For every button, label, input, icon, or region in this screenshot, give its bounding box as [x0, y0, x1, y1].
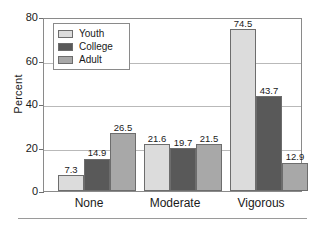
bar-vigorous-college: [256, 96, 282, 191]
legend-item-adult: Adult: [58, 53, 125, 66]
legend-label-adult: Adult: [79, 54, 102, 65]
plot-area: 7.3 14.9 26.5 21.6 19.7 21.5 74.5 43.7 1…: [43, 18, 302, 192]
bar-label-moderate-youth: 21.6: [144, 133, 170, 144]
legend-swatch-youth: [58, 30, 73, 38]
bar-none-adult: [110, 133, 136, 191]
bar-vigorous-adult: [282, 163, 308, 191]
bar-chart-figure: Percent 0 20 40 60 80 7.3 14.9 26.5 21.6…: [0, 0, 325, 229]
bar-vigorous-youth: [230, 29, 256, 191]
y-tick-label-60: 60: [0, 55, 38, 67]
bar-label-none-college: 14.9: [84, 147, 110, 158]
legend-label-youth: Youth: [79, 28, 104, 39]
bar-label-none-youth: 7.3: [58, 164, 84, 175]
bar-label-none-adult: 26.5: [110, 122, 136, 133]
bar-moderate-youth: [144, 144, 170, 191]
x-category-label-none: None: [43, 196, 135, 210]
legend-item-college: College: [58, 40, 125, 53]
bar-label-vigorous-college: 43.7: [256, 85, 282, 96]
legend-label-college: College: [79, 41, 113, 52]
chart-legend: Youth College Adult: [53, 23, 130, 70]
bar-label-moderate-adult: 21.5: [196, 133, 222, 144]
x-category-label-moderate: Moderate: [129, 196, 221, 210]
y-tick-mark-0: [39, 192, 44, 193]
bar-moderate-college: [170, 148, 196, 191]
legend-swatch-adult: [58, 56, 73, 64]
bar-label-vigorous-adult: 12.9: [282, 151, 308, 162]
y-tick-label-0: 0: [0, 185, 38, 197]
legend-item-youth: Youth: [58, 27, 125, 40]
bar-none-college: [84, 159, 110, 191]
bar-label-vigorous-youth: 74.5: [230, 18, 256, 29]
bar-moderate-adult: [196, 144, 222, 191]
y-tick-label-20: 20: [0, 142, 38, 154]
legend-swatch-college: [58, 43, 73, 51]
bar-none-youth: [58, 175, 84, 191]
x-category-label-vigorous: Vigorous: [215, 196, 307, 210]
y-tick-label-80: 80: [0, 11, 38, 23]
y-tick-label-40: 40: [0, 98, 38, 110]
footer-divider: [18, 218, 307, 219]
bar-label-moderate-college: 19.7: [170, 137, 196, 148]
